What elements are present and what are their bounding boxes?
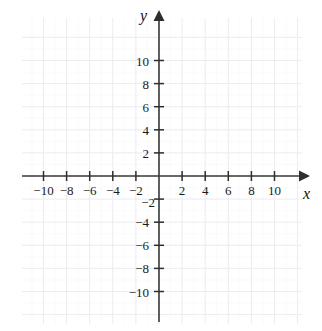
coordinate-plane: −10−8−6−4−2246810 108642−2−4−6−8−10 x y	[0, 0, 322, 331]
y-axis	[154, 10, 165, 322]
y-tick-label: 2	[103, 147, 149, 160]
y-tick-label: −8	[103, 262, 149, 275]
y-tick-label: 10	[103, 55, 149, 68]
y-axis-label: y	[140, 8, 147, 24]
x-axis-arrowhead	[299, 171, 310, 182]
y-tick-label: 6	[103, 101, 149, 114]
y-tick-label: −2	[109, 196, 155, 209]
y-tick-label: 4	[103, 124, 149, 137]
axes-layer	[0, 0, 322, 331]
y-tick-label: 8	[103, 78, 149, 91]
y-tick-label: −6	[103, 239, 149, 252]
y-axis-arrowhead	[154, 10, 165, 21]
y-tick-label: −4	[103, 216, 149, 229]
x-axis-label: x	[303, 186, 310, 202]
x-axis	[22, 171, 310, 182]
x-tick-label: 10	[255, 184, 295, 197]
y-tick-label: −10	[103, 286, 149, 299]
